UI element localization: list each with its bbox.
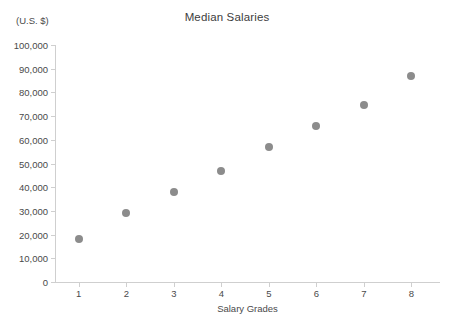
- x-axis-tick-mark: [269, 283, 270, 287]
- y-axis-line: [55, 45, 56, 283]
- x-axis-tick-label: 7: [361, 288, 366, 299]
- chart-title: Median Salaries: [0, 11, 454, 23]
- x-axis-tick-label: 3: [171, 288, 176, 299]
- y-axis-tick-label: 10,000: [0, 253, 48, 264]
- y-axis-tick-label: 100,000: [0, 40, 48, 51]
- x-axis-line: [55, 282, 440, 283]
- data-point: [360, 101, 368, 109]
- x-axis-tick-label: 8: [409, 288, 414, 299]
- x-axis-tick-label: 2: [124, 288, 129, 299]
- x-axis-tick-mark: [126, 283, 127, 287]
- y-axis-tick-mark: [51, 235, 55, 236]
- y-axis-tick-mark: [51, 282, 55, 283]
- data-point: [170, 188, 178, 196]
- scatter-chart: (U.S. $) Median Salaries 010,00020,00030…: [0, 0, 454, 329]
- y-axis-tick-mark: [51, 164, 55, 165]
- x-axis-tick-mark: [316, 283, 317, 287]
- data-point: [265, 143, 273, 151]
- x-axis-tick-mark: [364, 283, 365, 287]
- x-axis-tick-mark: [79, 283, 80, 287]
- data-point: [407, 72, 415, 80]
- y-axis-tick-label: 30,000: [0, 205, 48, 216]
- x-axis-tick-label: 1: [76, 288, 81, 299]
- y-axis-tick-label: 90,000: [0, 63, 48, 74]
- y-axis-tick-label: 20,000: [0, 229, 48, 240]
- y-axis-tick-mark: [51, 116, 55, 117]
- y-axis-tick-mark: [51, 211, 55, 212]
- y-axis-tick-mark: [51, 92, 55, 93]
- x-axis-tick-label: 6: [314, 288, 319, 299]
- y-axis-tick-mark: [51, 69, 55, 70]
- x-axis-tick-label: 4: [219, 288, 224, 299]
- y-axis-tick-label: 80,000: [0, 87, 48, 98]
- y-axis-tick-label: 50,000: [0, 158, 48, 169]
- data-point: [75, 235, 83, 243]
- y-axis-tick-mark: [51, 45, 55, 46]
- y-axis-tick-label: 0: [0, 277, 48, 288]
- data-point: [122, 209, 130, 217]
- x-axis-title: Salary Grades: [55, 303, 440, 314]
- x-axis-tick-mark: [411, 283, 412, 287]
- data-point: [217, 167, 225, 175]
- x-axis-tick-label: 5: [266, 288, 271, 299]
- y-axis-tick-label: 40,000: [0, 182, 48, 193]
- x-axis-tick-mark: [174, 283, 175, 287]
- x-axis-tick-mark: [221, 283, 222, 287]
- y-axis-tick-mark: [51, 187, 55, 188]
- y-axis-tick-label: 60,000: [0, 134, 48, 145]
- y-axis-tick-mark: [51, 258, 55, 259]
- y-axis-tick-mark: [51, 140, 55, 141]
- data-point: [312, 122, 320, 130]
- y-axis-tick-label: 70,000: [0, 111, 48, 122]
